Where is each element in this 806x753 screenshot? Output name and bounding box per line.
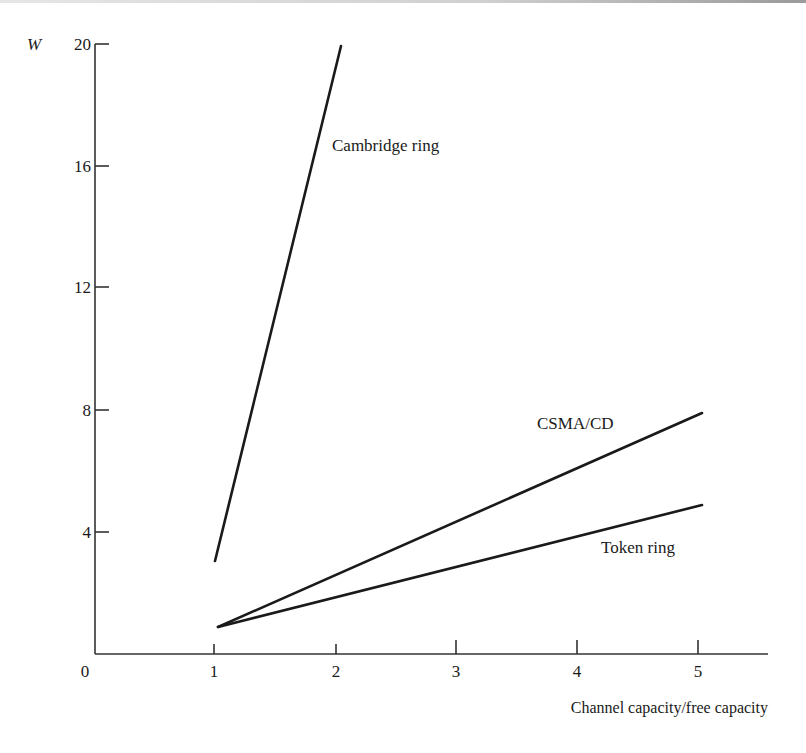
- y-label-16: 16: [74, 157, 91, 176]
- y-label-4: 4: [83, 523, 92, 542]
- x-axis-title: Channel capacity/free capacity: [571, 699, 768, 717]
- label-csma-cd: CSMA/CD: [537, 414, 614, 433]
- chart: 20 16 12 8 4 W 0 1 2 3 4 5 Channel capac…: [0, 0, 806, 753]
- y-ticks: [95, 44, 109, 532]
- x-label-0: 0: [81, 662, 90, 681]
- series-csma-cd: [218, 413, 702, 627]
- y-label-20: 20: [74, 35, 91, 54]
- y-axis-title: W: [27, 35, 43, 54]
- y-label-12: 12: [74, 278, 91, 297]
- x-label-3: 3: [452, 662, 461, 681]
- y-label-8: 8: [83, 401, 92, 420]
- series-cambridge-ring: [215, 46, 341, 561]
- x-label-2: 2: [332, 662, 341, 681]
- series-token-ring: [218, 505, 702, 627]
- label-token-ring: Token ring: [601, 538, 675, 557]
- x-ticks: [214, 640, 698, 654]
- x-tick-labels: 0 1 2 3 4 5: [81, 662, 703, 681]
- x-label-5: 5: [694, 662, 703, 681]
- x-label-1: 1: [210, 662, 219, 681]
- x-label-4: 4: [573, 662, 582, 681]
- y-tick-labels: 20 16 12 8 4: [74, 35, 92, 542]
- label-cambridge-ring: Cambridge ring: [332, 136, 440, 155]
